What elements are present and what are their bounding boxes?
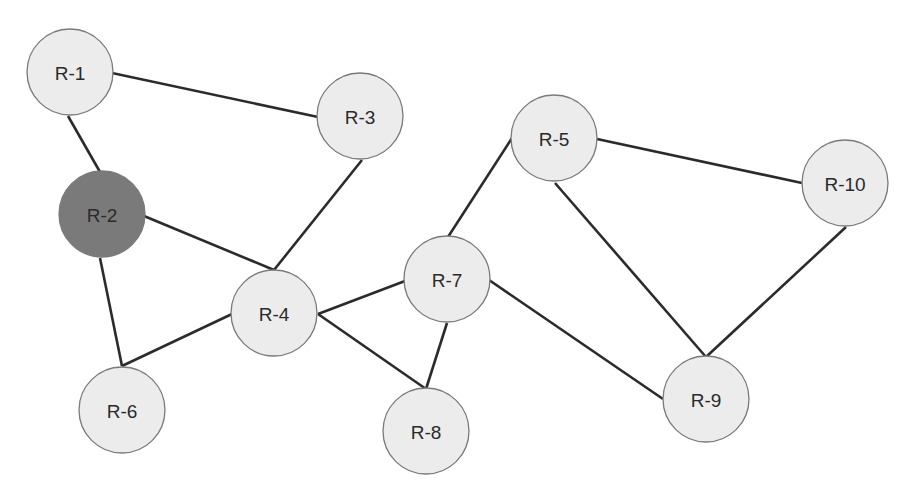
- node-r-1[interactable]: R-1: [27, 29, 113, 115]
- edge-r-5-r-10: [597, 139, 802, 183]
- node-label: R-7: [432, 270, 463, 291]
- edge-r-4-r-6: [122, 314, 232, 366]
- node-r-10[interactable]: R-10: [802, 140, 888, 226]
- node-label: R-9: [691, 390, 722, 411]
- node-r-3[interactable]: R-3: [317, 73, 403, 159]
- node-r-6[interactable]: R-6: [79, 367, 165, 453]
- edge-r-7-r-5: [448, 138, 512, 237]
- node-label: R-4: [259, 304, 290, 325]
- node-r-7[interactable]: R-7: [404, 236, 490, 322]
- node-label: R-10: [824, 174, 865, 195]
- node-label: R-8: [411, 422, 442, 443]
- edges-layer: [68, 73, 846, 399]
- node-label: R-3: [345, 107, 376, 128]
- edge-r-10-r-9: [706, 227, 846, 357]
- node-label: R-6: [107, 401, 138, 422]
- edge-r-4-r-7: [318, 281, 405, 314]
- node-r-4[interactable]: R-4: [231, 270, 317, 356]
- edge-r-7-r-9: [489, 280, 663, 399]
- node-r-9[interactable]: R-9: [663, 356, 749, 442]
- node-label: R-5: [539, 129, 570, 150]
- node-r-2[interactable]: R-2: [59, 171, 145, 257]
- edge-r-4-r-8: [318, 314, 426, 389]
- node-label: R-1: [55, 63, 86, 84]
- nodes-layer: R-1R-2R-3R-4R-5R-6R-7R-8R-9R-10: [27, 29, 888, 474]
- network-diagram: R-1R-2R-3R-4R-5R-6R-7R-8R-9R-10: [0, 0, 917, 494]
- edge-r-1-r-2: [68, 116, 100, 172]
- edge-r-5-r-9: [555, 183, 706, 357]
- edge-r-2-r-6: [100, 258, 122, 366]
- node-label: R-2: [87, 205, 118, 226]
- edge-r-3-r-4: [274, 160, 362, 270]
- edge-r-1-r-3: [112, 73, 318, 117]
- edge-r-2-r-4: [144, 216, 274, 270]
- node-r-8[interactable]: R-8: [383, 388, 469, 474]
- edge-r-7-r-8: [426, 323, 447, 389]
- node-r-5[interactable]: R-5: [511, 95, 597, 181]
